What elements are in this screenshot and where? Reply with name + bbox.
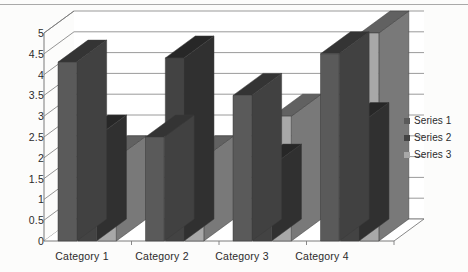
y-tick-label: 2: [14, 153, 44, 164]
bar-side-face: [77, 40, 107, 241]
bar-chart-graphic: [0, 0, 468, 272]
legend-label: Series 2: [414, 132, 452, 143]
y-tick-label: 3: [14, 111, 44, 122]
y-tick-label: 1: [14, 194, 44, 205]
axis-depth-connector: [44, 32, 74, 54]
chart-container: 5 4.5 4 3.5 3 2.5 2 1.5 1 0.5 0 Category…: [0, 0, 468, 272]
bar-front-face: [321, 54, 340, 241]
bar-front-face: [233, 95, 252, 241]
legend-label: Series 3: [414, 149, 452, 160]
legend-item-series-3[interactable]: Series 3: [404, 146, 468, 163]
value-axis-top-connector: [44, 11, 74, 33]
y-tick-label: 4.5: [14, 49, 44, 60]
legend-label: Series 1: [414, 115, 452, 126]
bar-front-face: [58, 62, 77, 241]
bar-front-face: [146, 137, 165, 241]
x-tick-label: Category 4: [262, 250, 382, 262]
y-tick-label: 5: [14, 28, 44, 39]
legend-swatch-series-3-icon: [404, 152, 410, 158]
legend-item-series-2[interactable]: Series 2: [404, 129, 468, 146]
y-tick-label: 3.5: [14, 90, 44, 101]
bar-column: [58, 40, 107, 241]
legend-item-series-1[interactable]: Series 1: [404, 112, 468, 129]
bar-side-face: [252, 73, 282, 241]
bar-column: [146, 115, 195, 241]
bar-column: [233, 73, 282, 241]
y-axis-labels: 5 4.5 4 3.5 3 2.5 2 1.5 1 0.5 0: [10, 0, 44, 272]
bar-column: [321, 32, 370, 241]
y-tick-label: 0.5: [14, 215, 44, 226]
y-tick-label: 1.5: [14, 173, 44, 184]
chart-legend: Series 1 Series 2 Series 3: [404, 112, 468, 163]
legend-swatch-series-1-icon: [404, 118, 410, 124]
legend-swatch-series-2-icon: [404, 135, 410, 141]
y-tick-label: 2.5: [14, 132, 44, 143]
bar-side-face: [339, 32, 369, 241]
y-tick-label: 0: [14, 236, 44, 247]
y-tick-label: 4: [14, 69, 44, 80]
plot-area: [0, 0, 468, 272]
